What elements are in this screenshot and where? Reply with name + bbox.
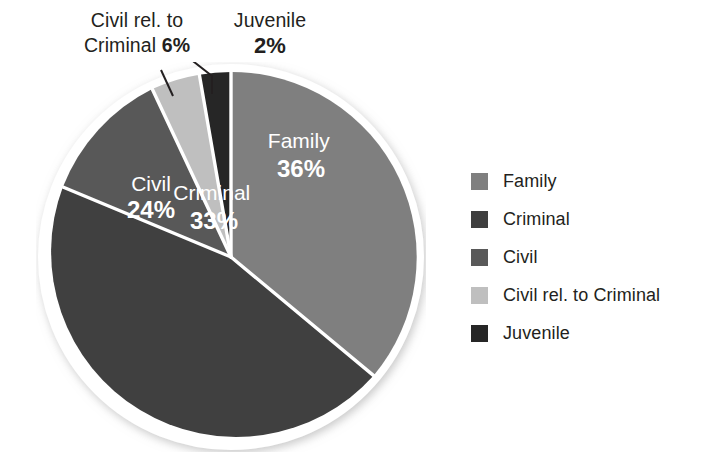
legend-swatch-family-icon [471, 173, 488, 190]
legend-swatch-civil-rel-to-criminal-icon [471, 287, 488, 304]
slice-label-family-percent: 36% [277, 155, 325, 182]
legend-item-juvenile[interactable]: Juvenile [471, 314, 703, 352]
slice-label-family-name: Family [268, 129, 330, 152]
legend-swatch-civil-icon [471, 249, 488, 266]
slice-label-family: Family 36% [268, 129, 334, 182]
callout-civil-rel-percent: 6% [162, 34, 190, 56]
chart-legend: Family Criminal Civil Civil rel. to Crim… [471, 162, 703, 352]
legend-item-family[interactable]: Family [471, 162, 703, 200]
chart-canvas: Family 36% Criminal 33% Civil 24% Ci [0, 0, 710, 465]
callout-civil-rel-to-criminal: Civil rel. to Criminal 6% [52, 8, 222, 58]
legend-label-criminal: Criminal [503, 209, 570, 230]
legend-item-criminal[interactable]: Criminal [471, 200, 703, 238]
legend-label-family: Family [503, 171, 557, 192]
legend-item-civil-rel-to-criminal[interactable]: Civil rel. to Criminal [471, 276, 703, 314]
pie-chart: Family 36% Criminal 33% [36, 62, 426, 452]
callout-civil-rel-line1: Civil rel. to [91, 9, 183, 31]
callout-juvenile-percent: 2% [214, 33, 326, 58]
callout-juvenile: Juvenile 2% [214, 8, 326, 58]
legend-label-civil: Civil [503, 247, 538, 268]
legend-swatch-criminal-icon [471, 211, 488, 228]
pie-slices-group [41, 67, 421, 447]
legend-label-civil-rel-to-criminal: Civil rel. to Criminal [503, 285, 660, 306]
legend-swatch-juvenile-icon [471, 325, 488, 342]
callout-juvenile-name: Juvenile [234, 9, 306, 31]
callout-civil-rel-name: Criminal [84, 34, 156, 56]
slice-label-criminal-name: Criminal [173, 181, 250, 204]
slice-label-criminal-percent: 33% [190, 207, 238, 234]
pie-chart-svg: Family 36% Criminal 33% [36, 62, 426, 452]
legend-label-juvenile: Juvenile [503, 323, 570, 344]
legend-item-civil[interactable]: Civil [471, 238, 703, 276]
callout-civil-rel-line2: Criminal 6% [52, 33, 222, 58]
